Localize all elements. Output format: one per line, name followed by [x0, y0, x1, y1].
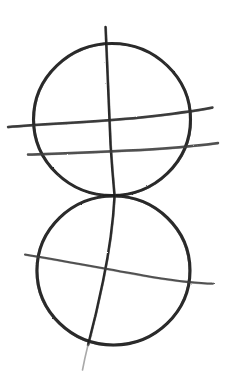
sketch-canvas	[0, 0, 234, 383]
paper-background	[0, 0, 234, 383]
sketch-svg	[0, 0, 234, 383]
